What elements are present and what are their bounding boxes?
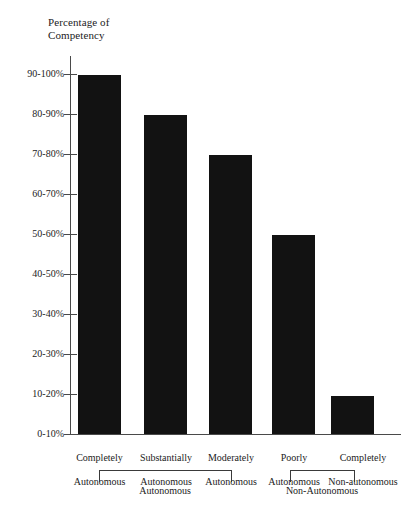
ytick-70-80: 70-80% (0, 149, 64, 159)
ytick-60-70: 60-70% (0, 189, 64, 199)
ytick-mark (64, 394, 77, 395)
x-axis-line (70, 434, 401, 435)
ytick-mark (64, 114, 77, 115)
xlabel-line-1: Completely (320, 452, 406, 464)
bar-completely-autonomous (78, 75, 121, 434)
bar-moderately-autonomous (209, 155, 252, 434)
group-label-autonomous: Autonomous (79, 485, 251, 496)
ytick-label: 10-20% (6, 389, 64, 399)
bar-poorly-autonomous (272, 235, 315, 434)
ytick-80-90: 80-90% (0, 109, 64, 119)
ytick-mark (64, 194, 77, 195)
bar-substantially-autonomous (144, 115, 187, 434)
ytick-0-10: 0-10% (0, 429, 64, 439)
y-axis-line (70, 56, 71, 435)
ytick-label: 60-70% (6, 189, 64, 199)
chart-title-line-1: Percentage of (48, 16, 109, 28)
bar-completely-non-autonomous (331, 396, 374, 434)
ytick-30-40: 30-40% (0, 309, 64, 319)
ytick-label: 20-30% (6, 349, 64, 359)
chart-title: Percentage of Competency (48, 16, 109, 42)
ytick-20-30: 20-30% (0, 349, 64, 359)
chart-title-line-2: Competency (48, 29, 105, 41)
ytick-mark (64, 234, 77, 235)
ytick-label: 30-40% (6, 309, 64, 319)
group-bracket-autonomous (99, 470, 232, 482)
ytick-mark (64, 354, 77, 355)
ytick-mark (64, 274, 77, 275)
ytick-40-50: 40-50% (0, 269, 64, 279)
group-label-non-autonomous: Non-Autonomous (266, 485, 378, 496)
ytick-label: 40-50% (6, 269, 64, 279)
ytick-mark (64, 74, 77, 75)
ytick-label: 0-10% (6, 429, 64, 439)
ytick-mark (64, 154, 77, 155)
ytick-mark (64, 434, 77, 435)
ytick-label: 70-80% (6, 149, 64, 159)
ytick-10-20: 10-20% (0, 389, 64, 399)
xlabel-line-1: Completely (62, 452, 137, 464)
ytick-90-100: 90-100% (0, 69, 64, 79)
bar-chart-figure: Percentage of Competency 90-100% 80-90% … (0, 0, 414, 511)
ytick-mark (64, 314, 77, 315)
ytick-label: 80-90% (6, 109, 64, 119)
ytick-50-60: 50-60% (0, 229, 64, 239)
ytick-label: 50-60% (6, 229, 64, 239)
group-bracket-non-autonomous (290, 470, 355, 482)
ytick-label: 90-100% (6, 69, 64, 79)
